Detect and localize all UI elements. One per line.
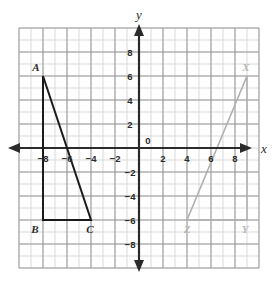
y-axis-label: y — [134, 7, 142, 22]
y-tick-label-8: 8 — [127, 47, 132, 58]
coordinate-plane-svg: −8 −6 −4 −2 2 4 6 8 8 6 4 2 −2 −4 −6 −8 … — [0, 0, 277, 286]
vertex-label-b: B — [30, 223, 38, 235]
coordinate-plane-figure: −8 −6 −4 −2 2 4 6 8 8 6 4 2 −2 −4 −6 −8 … — [0, 0, 277, 286]
y-tick-label-2: 2 — [127, 119, 132, 130]
origin-label: 0 — [145, 135, 150, 146]
vertex-label-x: X — [241, 61, 250, 73]
x-tick-label-8: 8 — [232, 153, 237, 164]
y-tick-label-neg4: −4 — [125, 191, 137, 202]
x-tick-label-4: 4 — [184, 153, 190, 164]
y-tick-label-4: 4 — [127, 95, 133, 106]
x-tick-label-neg6: −6 — [62, 153, 73, 164]
x-tick-label-neg4: −4 — [86, 153, 98, 164]
y-tick-label-6: 6 — [127, 71, 132, 82]
x-tick-label-neg8: −8 — [38, 153, 49, 164]
x-axis-label: x — [260, 141, 267, 156]
vertex-label-c: C — [86, 223, 94, 235]
x-tick-label-2: 2 — [160, 153, 165, 164]
y-tick-label-neg8: −8 — [125, 239, 136, 250]
y-tick-label-neg6: −6 — [125, 215, 136, 226]
x-tick-label-6: 6 — [208, 153, 213, 164]
vertex-label-a: A — [31, 61, 39, 73]
y-tick-label-neg2: −2 — [125, 167, 136, 178]
x-tick-label-neg2: −2 — [110, 153, 121, 164]
vertex-label-z: Z — [183, 223, 191, 235]
